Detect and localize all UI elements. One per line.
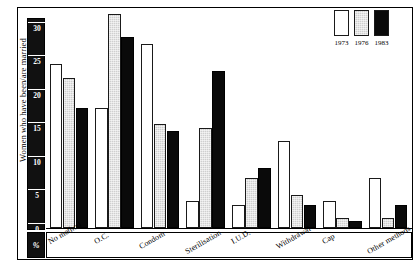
legend-swatch-1983 <box>374 10 389 36</box>
bar-group <box>274 14 320 228</box>
legend-swatches <box>334 10 389 36</box>
bar-1973 <box>323 201 336 228</box>
legend-swatch-1976 <box>354 10 369 36</box>
y-axis-tick-25: 25 <box>28 57 46 66</box>
bar-1983 <box>76 108 89 228</box>
bar-1976 <box>336 218 349 228</box>
bar-group <box>92 14 138 228</box>
y-axis-tick-5: 5 <box>28 191 46 200</box>
y-axis-tick-15: 15 <box>28 124 46 133</box>
bar-1983 <box>167 131 180 228</box>
bar-1973 <box>141 44 154 228</box>
bar-1976 <box>154 124 167 228</box>
x-axis-label-1: O.C. <box>92 230 110 246</box>
legend: 197319761983 <box>334 10 410 52</box>
bar-1973 <box>186 201 199 228</box>
bar-1973 <box>50 64 63 228</box>
bar-1973 <box>369 178 382 228</box>
bar-1973 <box>278 141 291 228</box>
legend-label-1983: 1983 <box>374 39 389 47</box>
legend-label-1973: 1973 <box>334 39 349 47</box>
y-axis: 051015202530 <box>27 18 45 230</box>
y-axis-tick-30: 30 <box>28 24 46 33</box>
bar-1976 <box>245 178 258 228</box>
y-axis-tick-20: 20 <box>28 91 46 100</box>
bar-group <box>229 14 275 228</box>
bar-1973 <box>232 205 245 228</box>
legend-label-1976: 1976 <box>354 39 369 47</box>
bar-group <box>183 14 229 228</box>
bar-group <box>46 14 92 228</box>
percent-label: % <box>27 232 45 258</box>
legend-swatch-1973 <box>334 10 349 36</box>
bar-1973 <box>95 108 108 228</box>
bar-1976 <box>291 195 304 228</box>
bar-1983 <box>121 37 134 228</box>
bar-1983 <box>212 71 225 228</box>
bar-1976 <box>382 218 395 228</box>
bar-1976 <box>108 14 121 228</box>
x-axis-label-3: Sterilisation <box>183 228 222 256</box>
legend-labels: 197319761983 <box>334 39 389 47</box>
bar-group <box>137 14 183 228</box>
x-axis-label-6: Cap <box>320 232 336 246</box>
bar-1983 <box>258 168 271 228</box>
y-axis-tick-10: 10 <box>28 158 46 167</box>
bar-1976 <box>63 78 76 228</box>
x-axis-label-band: No methodO.C.CondomSterilisationI.U.D.Wi… <box>46 232 412 258</box>
x-axis-baseline <box>46 228 412 229</box>
x-axis-label-2: Condom <box>138 229 167 251</box>
bar-chart: Women who have been/are married 05101520… <box>0 0 420 280</box>
bar-1976 <box>199 128 212 228</box>
bar-1983 <box>349 221 362 228</box>
